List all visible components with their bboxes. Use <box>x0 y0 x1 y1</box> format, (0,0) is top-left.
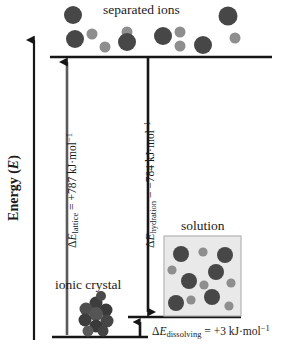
dissolving-subscript: dissolving <box>166 329 201 339</box>
energy-axis-label: Energy (E) <box>7 153 21 223</box>
energy-axis-label-close: ) <box>6 155 21 160</box>
hydration-symbol: E <box>144 234 156 241</box>
dissolving-energy-label: ΔEdissolving = +3 kJ·mol−1 <box>152 323 270 339</box>
separated-ions-label: separated ions <box>103 3 180 17</box>
hydration-exponent: −1 <box>142 121 152 130</box>
dissolving-equals: = <box>201 325 213 337</box>
lattice-exponent: −1 <box>64 133 74 142</box>
dissolving-value: +3 kJ·mol <box>214 325 261 337</box>
lattice-symbol: E <box>66 234 78 241</box>
hydration-energy-label: ΔEhydration = −784 kJ·mol−1 <box>142 121 158 248</box>
lattice-equals: = <box>66 201 78 213</box>
lattice-delta: Δ <box>66 241 78 248</box>
energy-diagram-figure: separated ions solution ionic crystal En… <box>0 0 284 346</box>
lattice-subscript: lattice <box>70 213 80 234</box>
hydration-subscript: hydration <box>148 201 158 234</box>
ionic-crystal-label: ionic crystal <box>55 278 121 292</box>
hydration-value: −784 kJ·mol <box>144 130 156 189</box>
energy-axis-label-symbol: E <box>6 160 21 169</box>
hydration-equals: = <box>144 189 156 201</box>
lattice-energy-label: ΔElattice = +787 kJ·mol−1 <box>64 133 80 248</box>
ionic-crystal-cluster <box>79 291 114 337</box>
energy-axis-label-text: Energy ( <box>6 169 21 221</box>
lattice-value: +787 kJ·mol <box>66 142 78 201</box>
dissolving-exponent: −1 <box>261 323 270 333</box>
solution-label: solution <box>181 219 225 233</box>
hydration-delta: Δ <box>144 241 156 248</box>
